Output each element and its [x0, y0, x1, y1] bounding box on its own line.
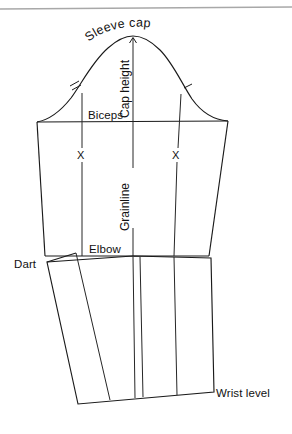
lower-grainline-b — [140, 257, 143, 397]
label-sleeve-cap: Sleeve cap — [82, 16, 151, 45]
lower-grainline-a — [133, 257, 135, 398]
upper-left-seam — [37, 122, 45, 256]
label-elbow: Elbow — [89, 243, 121, 255]
right-notch-icon — [184, 84, 192, 88]
right-inner-line-bottom — [174, 162, 177, 256]
label-dart: Dart — [14, 258, 37, 270]
sleeve-pattern-drawing: Sleeve cap Cap height Biceps Grainline X… — [0, 0, 292, 434]
lower-sleeve-outline — [47, 256, 214, 404]
pattern-diagram-canvas: Sleeve cap Cap height Biceps Grainline X… — [0, 0, 292, 434]
label-grainline: Grainline — [118, 183, 132, 231]
upper-right-seam — [209, 121, 228, 256]
label-x-right: X — [172, 149, 180, 161]
lower-right-panel-line — [174, 257, 177, 395]
left-notch-icon — [70, 81, 81, 90]
page-top-rule — [0, 7, 292, 9]
label-x-left: X — [77, 149, 85, 161]
lower-left-panel-line — [76, 253, 110, 400]
label-wrist-level: Wrist level — [216, 387, 270, 399]
label-biceps: Biceps — [88, 109, 123, 121]
